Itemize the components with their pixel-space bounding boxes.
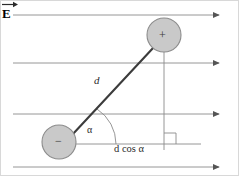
negative-charge-sign: − <box>55 135 62 147</box>
electric-field-label: E <box>2 6 11 22</box>
angle-label-alpha: α <box>87 124 92 135</box>
projection-label-d-cos-alpha: d cos α <box>114 143 144 154</box>
physics-dipole-figure: + − d α d cos α E <box>0 0 239 176</box>
positive-charge-sign: + <box>159 29 166 41</box>
right-angle-marker-icon <box>164 133 176 144</box>
separation-label-d: d <box>94 74 100 86</box>
dipole-axis-line <box>72 47 154 135</box>
